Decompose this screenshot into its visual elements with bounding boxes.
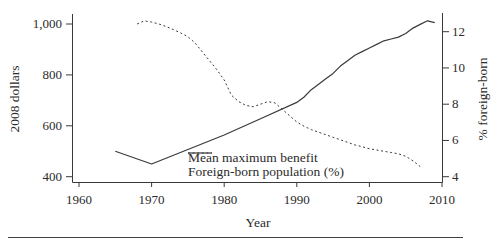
x-axis-label: Year (246, 215, 271, 231)
y-left-tick-label: 800 (18, 68, 62, 82)
y-left-tick-label: 1,000 (18, 17, 62, 31)
x-tick-label: 1960 (57, 193, 101, 207)
bottom-horizontal-rule (8, 237, 463, 238)
legend-solid-line-sample (188, 151, 212, 155)
legend-item-foreign-born: Foreign-born population (%) (188, 165, 344, 178)
y-right-tick-label: 12 (452, 25, 482, 39)
x-tick-label: 2010 (420, 193, 464, 207)
y-left-tick-label: 400 (18, 170, 62, 184)
figure: 1,00080060040012108641960197019801990200… (0, 0, 498, 244)
y-left-tick-label: 600 (18, 119, 62, 133)
legend: Mean maximum benefit Foreign-born popula… (188, 151, 344, 178)
y-axis-label-right: % foreign-born (475, 58, 491, 141)
foreign-born-series-line (115, 21, 434, 164)
benefit-series-line (137, 21, 420, 167)
x-tick-label: 1980 (202, 193, 246, 207)
legend-label-foreign-born: Foreign-born population (%) (188, 164, 344, 180)
x-tick-label: 1990 (275, 193, 319, 207)
x-tick-label: 2000 (347, 193, 391, 207)
y-right-tick-label: 4 (452, 170, 482, 184)
y-axis-label-left: 2008 dollars (7, 65, 23, 132)
chart-plot (0, 0, 498, 244)
x-tick-label: 1970 (130, 193, 174, 207)
